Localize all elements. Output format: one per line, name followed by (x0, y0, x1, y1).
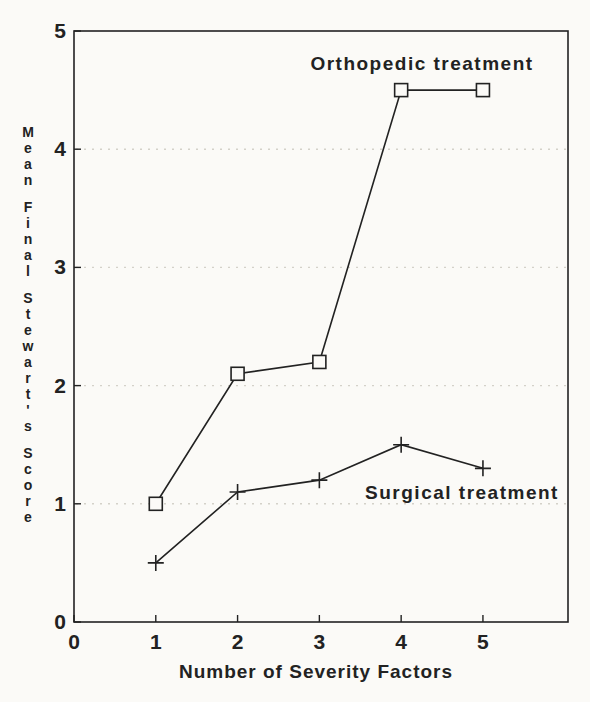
x-tick-label-4: 4 (395, 630, 407, 654)
y-title-gap (17, 188, 39, 199)
y-title-char: o (17, 477, 39, 493)
y-title-gap (17, 434, 39, 445)
plot-frame (74, 31, 568, 622)
y-title-char: n (17, 231, 39, 247)
y-title-gap (17, 279, 39, 290)
y-title-char: a (17, 156, 39, 172)
marker-square (395, 84, 408, 97)
y-title-char: w (17, 338, 39, 354)
figure: 012345012345 MeanFinalStewart'sScore Num… (0, 0, 590, 702)
series-label-orthopedic: Orthopedic treatment (310, 53, 533, 75)
x-tick-label-3: 3 (314, 630, 326, 654)
y-title-char: r (17, 370, 39, 386)
y-title-char: n (17, 172, 39, 188)
x-tick-label-1: 1 (150, 630, 162, 654)
y-tick-label-5: 5 (24, 19, 66, 43)
x-tick-label-5: 5 (477, 630, 489, 654)
x-axis-title: Number of Severity Factors (179, 661, 453, 683)
y-title-char: S (17, 445, 39, 461)
y-title-char: l (17, 263, 39, 279)
y-title-char: e (17, 509, 39, 525)
marker-plus (475, 460, 491, 476)
y-title-char: ' (17, 402, 39, 418)
x-tick-label-2: 2 (232, 630, 244, 654)
marker-square (476, 84, 489, 97)
series-label-surgical: Surgical treatment (365, 482, 559, 504)
y-title-char: a (17, 247, 39, 263)
y-title-char: e (17, 322, 39, 338)
y-title-char: s (17, 418, 39, 434)
marker-square (313, 355, 326, 368)
y-title-char: F (17, 199, 39, 215)
y-title-char: t (17, 386, 39, 402)
marker-square (231, 367, 244, 380)
y-title-char: i (17, 215, 39, 231)
y-tick-label-0: 0 (24, 610, 66, 634)
marker-square (149, 497, 162, 510)
y-title-char: e (17, 140, 39, 156)
marker-plus (393, 437, 409, 453)
y-title-char: r (17, 493, 39, 509)
y-title-char: c (17, 461, 39, 477)
chart-canvas (0, 0, 590, 702)
y-title-char: S (17, 290, 39, 306)
y-title-char: a (17, 354, 39, 370)
x-tick-label-0: 0 (68, 630, 80, 654)
y-title-char: t (17, 306, 39, 322)
y-axis-title: MeanFinalStewart'sScore (17, 124, 39, 525)
y-title-char: M (17, 124, 39, 140)
marker-plus (311, 472, 327, 488)
series-line-0 (156, 90, 483, 504)
